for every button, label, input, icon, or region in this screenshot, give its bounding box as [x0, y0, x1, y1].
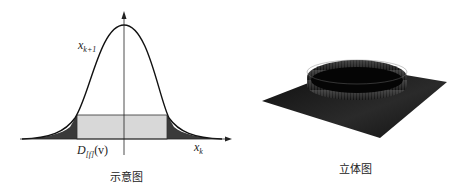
domain-box — [77, 115, 167, 139]
schematic-figure: xk+1 xk D[f](v) 示意图 — [0, 0, 240, 189]
schematic-caption: 示意图 — [110, 168, 143, 184]
ring-interior — [311, 67, 403, 93]
y-axis-arrow-icon — [122, 11, 127, 19]
3d-surface-figure: 立体图 — [240, 0, 465, 189]
3d-caption: 立体图 — [339, 160, 372, 176]
curve-label: xk+1 — [78, 38, 96, 54]
gaussian-curve-plot — [0, 0, 240, 189]
x-axis-label: xk — [194, 140, 203, 156]
x-axis-arrow-icon — [225, 137, 232, 142]
domain-label: D[f](v) — [77, 143, 108, 159]
